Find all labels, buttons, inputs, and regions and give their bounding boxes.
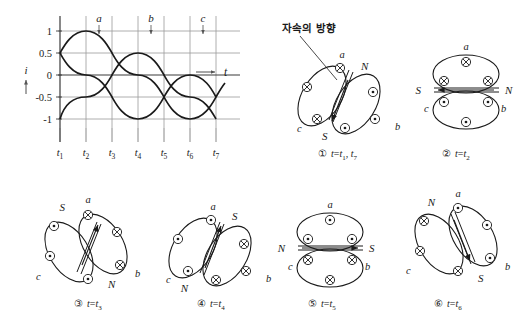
diagram-2-label-c: c <box>424 103 429 114</box>
cross-marker <box>211 275 220 284</box>
diagram-1-pole-n: N <box>360 60 369 72</box>
diagram-3-pole-n: N <box>107 278 116 290</box>
cross-marker <box>241 266 250 275</box>
ytick-label-1: 1 <box>47 26 52 37</box>
diagram-4-pole-s: S <box>232 210 238 222</box>
diagram-1-label-c: c <box>297 123 302 134</box>
cross-marker <box>335 63 344 72</box>
dot-marker <box>340 123 349 132</box>
diagram-4-label-c: c <box>166 274 171 285</box>
dot-marker <box>49 221 58 230</box>
diagram-6-label-a: a <box>455 188 460 199</box>
top-marker-c: c <box>201 12 206 24</box>
cross-marker <box>303 255 312 264</box>
diagram-6-pole-n: N <box>427 196 436 208</box>
diagram-4-label-a: a <box>210 201 215 212</box>
diagram-5-label-b: b <box>365 261 370 272</box>
cross-marker <box>325 275 334 284</box>
cross-marker <box>239 239 248 248</box>
figure-root: 1 0.5 0 -0.5 -1 i t t1 t2 t3 t4 t5 t6 t7… <box>0 0 524 319</box>
diagram-5-label-a: a <box>327 199 332 210</box>
top-marker-a: a <box>96 12 102 24</box>
diagram-3-label-c: c <box>36 271 41 282</box>
diagram-2-pole-s: S <box>416 84 422 96</box>
dot-marker <box>173 234 182 243</box>
cross-marker <box>312 114 321 123</box>
top-marker-b: b <box>148 12 154 24</box>
diagram-5-label-c: c <box>288 261 293 272</box>
diagram-5-pole-s: S <box>369 242 375 254</box>
flux-direction-label: 자속의 방향 <box>282 22 336 34</box>
dot-marker <box>206 215 215 224</box>
diagram-3-label-a: a <box>85 194 90 205</box>
cross-marker <box>112 227 121 236</box>
cross-marker <box>115 260 124 269</box>
cross-marker <box>415 246 424 255</box>
cross-marker <box>439 76 448 85</box>
dot-marker <box>83 274 92 283</box>
cross-marker <box>83 210 92 219</box>
ytick-label-neg1: -1 <box>43 114 52 125</box>
dot-marker <box>370 114 379 123</box>
cross-marker <box>461 57 470 66</box>
diagram-1-label-a: a <box>339 49 344 60</box>
dot-marker <box>368 87 377 96</box>
diagram-3-label-b: b <box>135 268 140 279</box>
dot-marker <box>183 266 192 275</box>
dot-marker <box>439 97 448 106</box>
cross-marker <box>483 76 492 85</box>
cross-marker <box>419 216 428 225</box>
chart-ylabel: i <box>24 64 27 76</box>
dot-marker <box>453 203 462 212</box>
dot-marker <box>45 251 54 260</box>
dot-marker <box>461 117 470 126</box>
diagram-1-label-b: b <box>395 121 400 132</box>
diagram-6-pole-s: S <box>478 272 484 284</box>
diagram-3-pole-s: S <box>60 201 66 213</box>
diagram-4-label-b: b <box>266 273 271 284</box>
ytick-label-0: 0 <box>47 70 52 81</box>
background <box>0 0 524 319</box>
diagram-1-caption-index: ① <box>318 148 327 159</box>
dot-marker <box>325 215 334 224</box>
diagram-2-label-b: b <box>501 103 506 114</box>
diagram-6-caption-index: ⑥ <box>434 298 443 309</box>
cross-marker <box>347 255 356 264</box>
cross-marker <box>302 82 311 91</box>
diagram-3-caption-index: ③ <box>74 298 83 309</box>
figure-canvas: 1 0.5 0 -0.5 -1 i t t1 t2 t3 t4 t5 t6 t7… <box>0 0 524 319</box>
diagram-5-caption-index: ⑤ <box>308 298 317 309</box>
ytick-label-neg05: -0.5 <box>35 92 52 103</box>
dot-marker <box>347 234 356 243</box>
diagram-6-label-b: b <box>505 261 510 272</box>
dot-marker <box>483 97 492 106</box>
diagram-2-caption-index: ② <box>442 148 451 159</box>
dot-marker <box>303 234 312 243</box>
diagram-2-label-a: a <box>463 41 468 52</box>
diagram-4-caption-index: ④ <box>197 298 206 309</box>
ytick-label-05: 0.5 <box>39 48 52 59</box>
diagram-2-pole-n: N <box>504 84 513 96</box>
diagram-5-pole-n: N <box>277 242 286 254</box>
diagram-6-label-c: c <box>406 265 411 276</box>
diagram-4-pole-n: N <box>180 282 189 294</box>
dot-marker <box>482 220 491 229</box>
diagram-1-pole-s: S <box>322 130 328 142</box>
dot-marker <box>485 253 494 262</box>
cross-marker <box>453 266 462 275</box>
